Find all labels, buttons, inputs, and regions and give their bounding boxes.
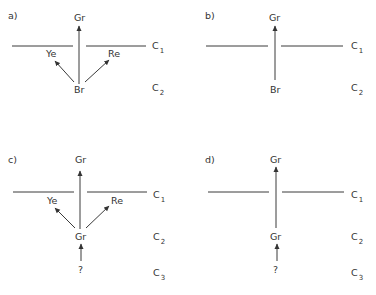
layer-label-c3: C3 <box>351 267 363 282</box>
panel-b: b) Gr Br C1 C2 <box>205 10 363 97</box>
node-top: Gr <box>75 154 86 165</box>
layer-label-c1: C1 <box>351 40 363 55</box>
arrow-left <box>55 61 74 82</box>
node-top: Gr <box>270 154 281 165</box>
node-origin: ? <box>78 264 83 275</box>
node-left: Ye <box>46 195 58 206</box>
layer-label-c3: C3 <box>153 267 165 282</box>
node-source: Gr <box>270 231 281 242</box>
node-source: Gr <box>75 231 86 242</box>
panel-a: a) Gr Ye Re Br C1 C2 <box>8 10 164 97</box>
diagram-canvas: a) Gr Ye Re Br C1 C2 b) Gr Br C1 C2 c) G… <box>0 0 376 295</box>
panel-d: d) Gr Gr ? C1 C2 C3 <box>205 154 363 282</box>
node-origin: ? <box>273 264 278 275</box>
layer-label-c2: C2 <box>152 82 164 97</box>
node-top: Gr <box>269 12 280 23</box>
layer-label-c2: C2 <box>351 231 363 246</box>
arrow-right <box>85 60 109 82</box>
node-source: Br <box>270 84 281 95</box>
arrow-right <box>86 206 109 228</box>
layer-label-c1: C1 <box>152 40 164 55</box>
layer-label-c1: C1 <box>351 189 363 204</box>
node-source: Br <box>74 84 85 95</box>
arrow-left <box>55 208 75 228</box>
node-top: Gr <box>74 12 85 23</box>
layer-label-c2: C2 <box>351 82 363 97</box>
node-right: Re <box>111 195 123 206</box>
panel-label: b) <box>205 10 215 21</box>
layer-label-c2: C2 <box>153 231 165 246</box>
node-right: Re <box>108 48 120 59</box>
panel-label: a) <box>8 10 18 21</box>
node-left: Ye <box>45 48 57 59</box>
panel-c: c) Gr Ye Re Gr ? C1 C2 C3 <box>8 154 165 282</box>
layer-label-c1: C1 <box>153 189 165 204</box>
panel-label: c) <box>8 154 17 165</box>
panel-label: d) <box>205 154 215 165</box>
